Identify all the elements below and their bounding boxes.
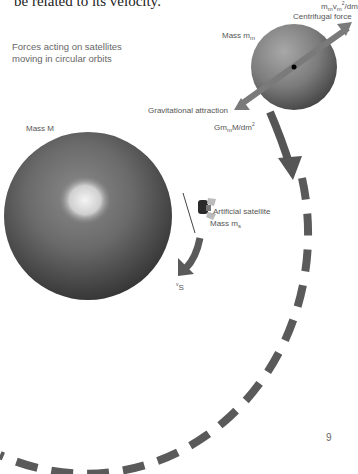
label-part: m xyxy=(250,35,255,41)
satellite-velocity-arrow xyxy=(178,238,200,276)
moon-velocity-arrow xyxy=(270,112,302,180)
moon-mass-label: Mass mm xyxy=(222,31,255,41)
formula-part: m xyxy=(321,2,328,11)
satellite-mass-label: Mass ms xyxy=(210,219,241,229)
earth-mass-label: Mass M xyxy=(26,124,54,133)
gravitational-attraction-label: Gravitational attraction xyxy=(148,106,228,115)
centrifugal-force-label: Centrifugal force xyxy=(293,12,352,21)
formula-part: M/dm xyxy=(232,123,252,132)
formula-part: 2 xyxy=(252,121,255,127)
moon-velocity-label: vS xyxy=(300,181,308,192)
label-part: S xyxy=(179,283,184,292)
earth-sphere xyxy=(4,132,172,300)
label-part: Mass m xyxy=(210,219,238,228)
formula-part: Gm xyxy=(214,123,227,132)
satellite-velocity-label: vS xyxy=(176,281,184,292)
label-part: s xyxy=(238,223,241,229)
satellite-label: Artificial satellite xyxy=(213,207,270,216)
page-number: 9 xyxy=(326,432,332,443)
formula-part: /dm xyxy=(344,2,357,11)
label-part: Mass m xyxy=(222,31,250,40)
centrifugal-formula: mmvm2/dm xyxy=(321,0,358,12)
gravitational-formula: GmmM/dm2 xyxy=(214,121,255,133)
label-part: S xyxy=(303,183,308,192)
